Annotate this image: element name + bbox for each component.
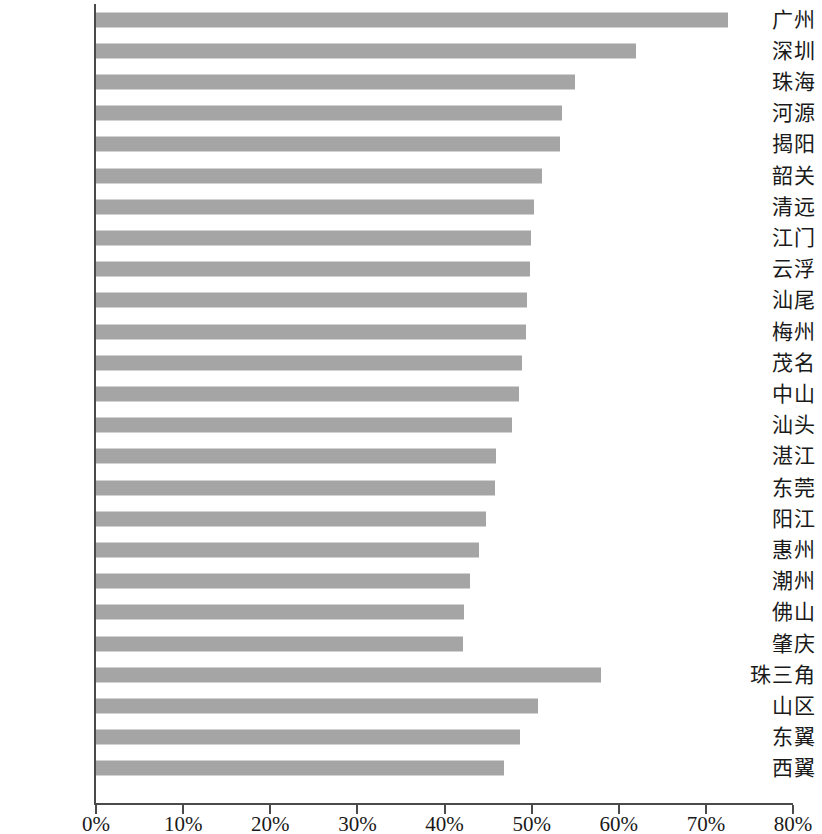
bar — [96, 480, 495, 495]
bar — [96, 168, 542, 183]
bar — [96, 12, 728, 27]
bar — [96, 324, 526, 339]
bar — [96, 355, 522, 370]
x-axis-tick-label: 10% — [138, 812, 228, 834]
x-axis-tick-label: 30% — [312, 812, 402, 834]
bar-row: 江门 — [0, 222, 822, 253]
bar-track — [96, 199, 793, 214]
bar-row: 阳江 — [0, 503, 822, 534]
bar-track — [96, 449, 793, 464]
bar-row: 山区 — [0, 690, 822, 721]
bar-row: 惠州 — [0, 534, 822, 565]
bar-track — [96, 12, 793, 27]
bar-row: 珠三角 — [0, 659, 822, 690]
bar-row: 广州 — [0, 4, 822, 35]
bar — [96, 542, 479, 557]
bar — [96, 636, 463, 651]
x-axis-tick-label: 50% — [487, 812, 577, 834]
bar-track — [96, 542, 793, 557]
x-axis-tick-label: 70% — [661, 812, 751, 834]
bar-track — [96, 74, 793, 89]
bar-track — [96, 667, 793, 682]
bar — [96, 511, 486, 526]
bar-row: 东翼 — [0, 722, 822, 753]
bar-track — [96, 262, 793, 277]
bar-track — [96, 355, 793, 370]
bar-row: 深圳 — [0, 35, 822, 66]
bar — [96, 106, 562, 121]
bar — [96, 199, 534, 214]
x-axis-tick-label: 20% — [225, 812, 315, 834]
bar-track — [96, 730, 793, 745]
bar — [96, 698, 538, 713]
bar-track — [96, 324, 793, 339]
bar — [96, 262, 530, 277]
x-axis-tick-label: 60% — [574, 812, 664, 834]
bar — [96, 761, 504, 776]
bar-track — [96, 106, 793, 121]
bar-row: 珠海 — [0, 66, 822, 97]
bar-track — [96, 636, 793, 651]
x-axis-tick-label: 0% — [51, 812, 141, 834]
bar-track — [96, 605, 793, 620]
bar — [96, 137, 560, 152]
bar-track — [96, 293, 793, 308]
bar-track — [96, 386, 793, 401]
x-axis-tick-label: 80% — [748, 812, 822, 834]
bar-track — [96, 418, 793, 433]
bar — [96, 418, 512, 433]
bar-row: 汕头 — [0, 410, 822, 441]
bar-row: 西翼 — [0, 753, 822, 784]
bar-row: 清远 — [0, 191, 822, 222]
bar — [96, 230, 531, 245]
bar-row: 河源 — [0, 98, 822, 129]
bar-track — [96, 698, 793, 713]
bar — [96, 574, 470, 589]
bar-row: 韶关 — [0, 160, 822, 191]
bar — [96, 667, 601, 682]
bar-row: 肇庆 — [0, 628, 822, 659]
bar-track — [96, 761, 793, 776]
bar — [96, 43, 636, 58]
bar-track — [96, 137, 793, 152]
bar-row: 揭阳 — [0, 129, 822, 160]
bar-row: 汕尾 — [0, 285, 822, 316]
bar-track — [96, 43, 793, 58]
bar-row: 中山 — [0, 378, 822, 409]
bar-row: 佛山 — [0, 597, 822, 628]
bar — [96, 605, 464, 620]
bar — [96, 293, 527, 308]
bar-row: 湛江 — [0, 441, 822, 472]
bar-row: 潮州 — [0, 566, 822, 597]
bar-track — [96, 168, 793, 183]
bar-track — [96, 230, 793, 245]
bar-track — [96, 480, 793, 495]
bar — [96, 449, 496, 464]
bar — [96, 74, 575, 89]
horizontal-bar-chart: 广州深圳珠海河源揭阳韶关清远江门云浮汕尾梅州茂名中山汕头湛江东莞阳江惠州潮州佛山… — [0, 0, 822, 834]
bar-track — [96, 511, 793, 526]
bar-row: 云浮 — [0, 254, 822, 285]
bar-track — [96, 574, 793, 589]
bar — [96, 386, 519, 401]
x-axis-tick-label: 40% — [400, 812, 490, 834]
bar-row: 东莞 — [0, 472, 822, 503]
bar-row: 茂名 — [0, 347, 822, 378]
bar — [96, 730, 520, 745]
bar-row: 梅州 — [0, 316, 822, 347]
